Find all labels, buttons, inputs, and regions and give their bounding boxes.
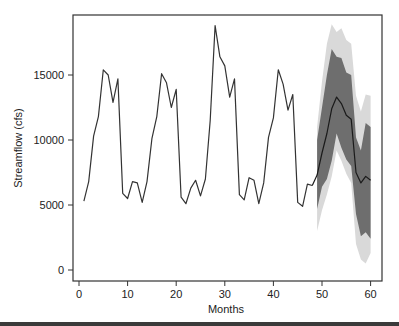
x-tick-label: 0: [76, 288, 82, 300]
y-tick-label: 10000: [33, 134, 64, 146]
x-tick-label: 30: [219, 288, 231, 300]
x-axis: 0102030405060: [76, 281, 377, 300]
bottom-divider-bar: [0, 322, 399, 326]
y-tick-label: 0: [58, 264, 64, 276]
x-tick-label: 60: [364, 288, 376, 300]
streamflow-chart: 0102030405060 050001000015000 Months Str…: [0, 0, 399, 326]
x-tick-label: 50: [316, 288, 328, 300]
x-axis-title: Months: [208, 303, 245, 315]
x-tick-label: 20: [170, 288, 182, 300]
y-axis-title: Streamflow (cfs): [12, 108, 24, 187]
y-axis: 050001000015000: [33, 69, 73, 276]
plot-area: [84, 24, 371, 263]
y-tick-label: 15000: [33, 69, 64, 81]
y-tick-label: 5000: [40, 199, 64, 211]
observed-streamflow-line: [84, 26, 312, 207]
x-tick-label: 10: [121, 288, 133, 300]
x-tick-label: 40: [267, 288, 279, 300]
